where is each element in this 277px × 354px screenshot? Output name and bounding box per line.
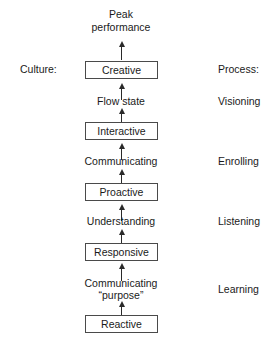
arrow-to-communicating <box>120 169 123 183</box>
arrow-shaft <box>121 174 122 183</box>
stage-box-responsive: Responsive <box>85 243 158 261</box>
stage-box-interactive-label: Interactive <box>97 125 145 137</box>
transition-label-understanding: Understanding <box>41 215 201 228</box>
stage-box-reactive: Reactive <box>85 315 158 333</box>
peak-performance-label-line1: Peak <box>41 8 201 21</box>
culture-process-flow-diagram: Peak performance Culture: Process: Creat… <box>0 0 277 354</box>
stage-box-interactive: Interactive <box>85 122 158 140</box>
arrow-to-communicating-purpose <box>120 301 123 315</box>
process-label-visioning: Visioning <box>218 95 260 108</box>
transition-label-flow-state: Flow state <box>41 95 201 108</box>
arrow-shaft <box>121 113 122 122</box>
arrow-to-flow-state <box>120 108 123 122</box>
stage-box-reactive-label: Reactive <box>101 318 142 330</box>
stage-box-proactive-label: Proactive <box>100 186 144 198</box>
process-column-header: Process: <box>218 63 259 76</box>
stage-box-proactive: Proactive <box>85 183 158 201</box>
process-label-listening: Listening <box>218 215 260 228</box>
arrow-creative-to-peak-performance <box>120 41 123 60</box>
process-label-enrolling: Enrolling <box>218 155 259 168</box>
transition-label-communicating: Communicating <box>41 155 201 168</box>
arrow-to-understanding <box>120 229 123 243</box>
arrow-shaft <box>121 46 122 60</box>
transition-label-communicating-purpose-line1: Communicating <box>41 277 201 290</box>
transition-label-communicating-purpose-line2: “purpose” <box>41 289 201 302</box>
culture-column-header: Culture: <box>20 63 57 76</box>
peak-performance-label-line2: performance <box>41 21 201 34</box>
process-label-learning: Learning <box>218 283 259 296</box>
arrow-shaft <box>121 306 122 315</box>
arrow-shaft <box>121 234 122 243</box>
stage-box-creative: Creative <box>85 61 158 79</box>
stage-box-responsive-label: Responsive <box>94 246 149 258</box>
stage-box-creative-label: Creative <box>102 64 141 76</box>
